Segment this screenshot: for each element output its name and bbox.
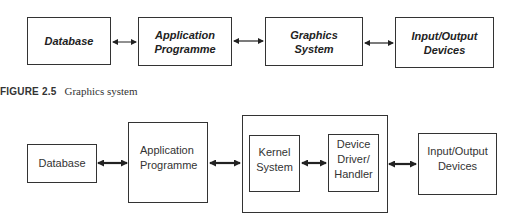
connection-arrows xyxy=(0,0,517,224)
